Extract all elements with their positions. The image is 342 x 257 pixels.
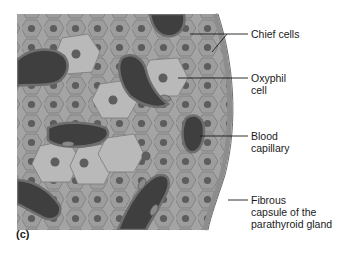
label-blood-capillary: Blood capillary <box>251 130 290 154</box>
panel-label: (c) <box>16 228 29 240</box>
label-fibrous-capsule: Fibrous capsule of the parathyroid gland <box>251 194 332 230</box>
label-chief-cells: Chief cells <box>251 28 299 40</box>
label-oxyphil-cell: Oxyphil cell <box>251 72 286 96</box>
